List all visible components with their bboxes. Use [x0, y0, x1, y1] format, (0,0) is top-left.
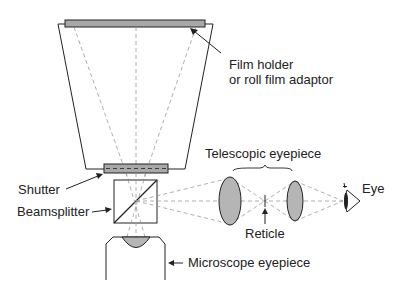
eye-icon	[343, 183, 360, 212]
reticle-arrow	[262, 208, 268, 224]
optical-diagram	[0, 0, 401, 292]
label-reticle: Reticle	[245, 227, 285, 241]
label-telescopic-eyepiece: Telescopic eyepiece	[205, 147, 321, 161]
film-holder	[65, 20, 205, 27]
telescopic-lens-2	[287, 181, 303, 221]
ray-lines-housing	[74, 27, 196, 201]
beamsplitter-cube	[114, 180, 157, 223]
film-holder-arrow	[190, 28, 221, 53]
label-shutter: Shutter	[18, 183, 60, 197]
label-eye: Eye	[362, 182, 384, 196]
telescopic-brace	[233, 165, 292, 171]
label-microscope-eyepiece: Microscope eyepiece	[188, 256, 310, 270]
beamsplitter-arrow	[92, 207, 112, 213]
label-film-holder: Film holder	[229, 58, 293, 72]
microscope-eyepiece-arrow	[168, 260, 183, 266]
label-beamsplitter: Beamsplitter	[17, 205, 89, 219]
telescopic-lens-1	[219, 177, 241, 225]
label-film-holder-line2: or roll film adaptor	[229, 73, 333, 87]
shutter	[104, 164, 168, 173]
eyepiece-lens	[122, 237, 150, 248]
shutter-arrow	[66, 173, 103, 189]
camera-housing	[58, 24, 213, 169]
